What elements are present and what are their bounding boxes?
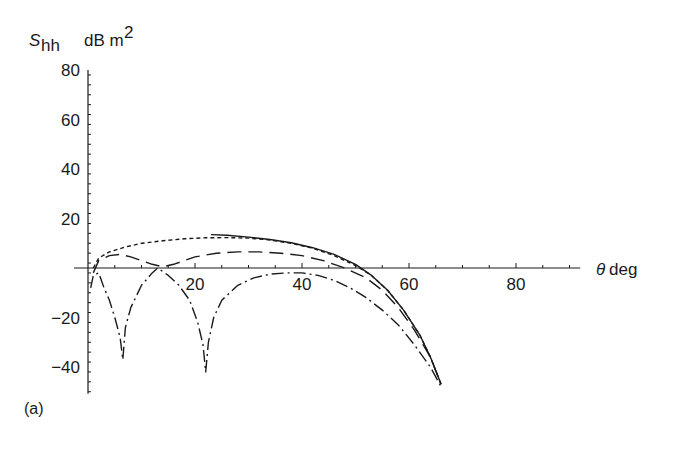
- y-tick-label: −40: [51, 358, 80, 377]
- series-solid: [211, 235, 441, 385]
- y-tick-label: 20: [61, 210, 80, 229]
- y-tick-label: 40: [61, 160, 80, 179]
- y-tick-label: 60: [61, 111, 80, 130]
- series-long-dash: [93, 252, 441, 384]
- series-dash-dot: [91, 268, 441, 387]
- plot-series: [91, 235, 441, 387]
- x-axis-label: θ deg: [596, 260, 637, 279]
- x-tick-label: 60: [400, 275, 419, 294]
- series-short-dash: [93, 238, 441, 385]
- x-tick-label: 80: [507, 275, 526, 294]
- panel-label: (a): [24, 400, 44, 418]
- svg-text:S: S: [29, 31, 41, 50]
- x-axis: 20406080: [74, 263, 580, 294]
- chart: S hh dB m 2 80604020−20−40 20406080 θ de…: [0, 0, 674, 457]
- y-axis: 80604020−20−40: [51, 61, 91, 394]
- svg-text:2: 2: [124, 23, 133, 42]
- svg-text:deg: deg: [609, 260, 637, 279]
- svg-text:hh: hh: [41, 36, 60, 55]
- svg-text:θ: θ: [596, 260, 606, 279]
- y-tick-label: −20: [51, 309, 80, 328]
- svg-text:dB m: dB m: [84, 31, 124, 50]
- y-tick-label: 80: [61, 61, 80, 80]
- x-tick-label: 20: [186, 275, 205, 294]
- y-axis-label: S hh dB m 2: [29, 23, 133, 55]
- x-tick-label: 40: [293, 275, 312, 294]
